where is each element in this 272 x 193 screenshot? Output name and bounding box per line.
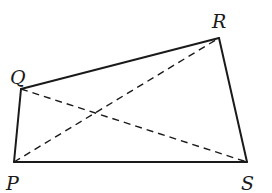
side-qr [21,38,219,89]
vertex-label-r: R [211,10,226,32]
diagonals [14,38,247,162]
quadrilateral-diagram: P Q R S [0,0,272,193]
vertex-label-p: P [5,172,20,193]
diagonal-pr [14,38,219,162]
vertex-label-q: Q [10,66,26,88]
vertex-label-s: S [241,172,254,193]
diagonal-qs [21,89,247,162]
side-rs [219,38,247,162]
vertex-labels: P Q R S [5,10,254,193]
side-pq [14,89,21,162]
sides [14,38,247,162]
